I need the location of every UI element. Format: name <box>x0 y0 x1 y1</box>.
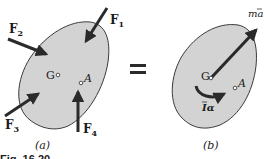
point-g-label-a: G <box>46 69 55 82</box>
figure-caption: Fig. 16.20 <box>0 153 50 159</box>
panel-a-label: (a) <box>35 139 50 152</box>
body-a-shape <box>19 22 109 129</box>
equals-sign-top <box>130 64 146 67</box>
force-f1-label: F1 <box>110 13 124 29</box>
point-g-marker-a <box>56 73 60 77</box>
force-f2-label: F2 <box>9 22 23 38</box>
force-f4-label: F4 <box>83 122 98 138</box>
point-a-marker-b <box>233 86 237 90</box>
equals-sign-bottom <box>130 71 146 74</box>
point-a-label-a: A <box>83 72 92 85</box>
point-g-marker-b <box>209 76 213 80</box>
point-g-label-b: G <box>201 70 210 83</box>
point-a-marker-a <box>79 81 83 85</box>
panel-b-label: (b) <box>203 139 219 152</box>
force-f3-label: F3 <box>5 118 20 134</box>
ma-vector-label: ma <box>248 8 263 19</box>
rigid-body-diagram: F1 F2 F3 F4 G A ma G A Iα (a) (b) Fig. 1… <box>0 0 268 159</box>
couple-label: Iα <box>201 102 215 113</box>
point-a-label-b: A <box>237 77 246 90</box>
